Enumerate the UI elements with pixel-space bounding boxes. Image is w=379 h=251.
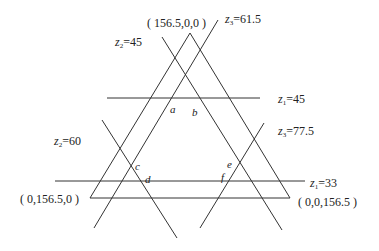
point-a: a — [170, 103, 176, 115]
label-z3-61-5: z3=61.5 — [225, 13, 261, 29]
label-z2-45: z2=45 — [115, 36, 142, 52]
label-z3-77-5: z3=77.5 — [278, 125, 314, 141]
vertex-top-label: ( 156.5,0,0 ) — [147, 17, 206, 29]
diagram-lines — [0, 0, 379, 251]
label-z2-60: z2=60 — [54, 135, 81, 151]
line-z2-45 — [162, 37, 282, 230]
label-value: =60 — [62, 134, 81, 148]
label-value: =45 — [286, 92, 305, 106]
point-f: f — [221, 171, 224, 183]
line-z2-60 — [102, 120, 177, 238]
ternary-diagram: ( 156.5,0,0 ) ( 0,156.5,0 ) ( 0,0,156.5 … — [0, 0, 379, 251]
point-d: d — [145, 173, 151, 185]
point-c: c — [135, 160, 140, 172]
point-e: e — [227, 158, 232, 170]
vertex-bottom-right-label: ( 0,0,156.5 ) — [298, 196, 357, 208]
line-z3-77-5 — [200, 123, 264, 228]
label-z1-45: z1=45 — [278, 93, 305, 109]
point-b: b — [192, 106, 198, 118]
label-value: =77.5 — [286, 124, 314, 138]
label-value: =61.5 — [233, 12, 261, 26]
label-z1-33: z1=33 — [310, 177, 337, 193]
label-value: =45 — [123, 35, 142, 49]
label-value: =33 — [318, 176, 337, 190]
vertex-bottom-left-label: ( 0,156.5,0 ) — [20, 193, 79, 205]
main-triangle — [90, 33, 290, 198]
line-z3-61-5 — [94, 20, 218, 228]
